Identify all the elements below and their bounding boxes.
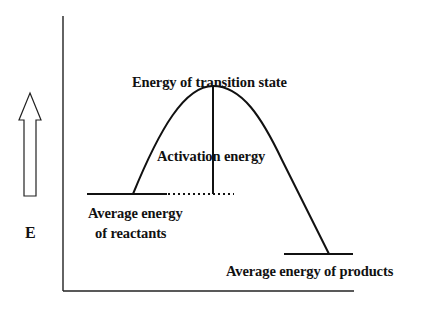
activation-energy-label: Activation energy: [157, 149, 265, 164]
energy-up-arrow-icon: [19, 93, 41, 196]
reactants-label-line1: Average energy: [88, 206, 183, 221]
products-label: Average energy of products: [226, 264, 393, 279]
transition-state-label: Energy of transition state: [132, 75, 287, 90]
reactants-label-line2: of reactants: [95, 226, 166, 241]
energy-axis-label: E: [25, 225, 36, 241]
